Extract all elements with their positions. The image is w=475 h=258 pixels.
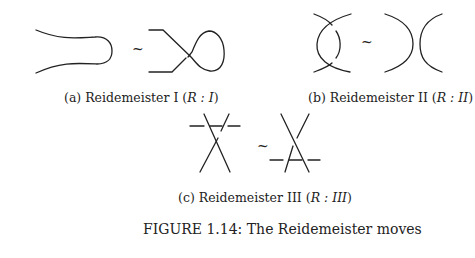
caption-reidemeister-1: (a) Reidemeister I (R : I) [64,90,219,105]
figure-caption: FIGURE 1.14: The Reidemeister moves [143,221,422,237]
caption-reidemeister-3: (c) Reidemeister III (R : III) [178,190,352,205]
r2-left-strands [314,14,351,72]
caption-text: ) [347,190,352,205]
r2-equivalence-symbol: ~ [361,34,373,50]
caption-math: R : II [437,90,468,105]
caption-text: (c) Reidemeister III ( [178,190,311,205]
r2-right-strands [385,14,442,72]
caption-text: (b) Reidemeister II ( [308,90,437,105]
caption-math: R : I [187,90,214,105]
caption-text: ) [468,90,473,105]
r1-left-strand [36,30,112,73]
r1-equivalence-symbol: ~ [132,41,144,57]
r1-right-strand [149,30,224,72]
caption-math: R : III [311,190,347,205]
caption-text: ) [214,90,219,105]
r3-left-strands [190,114,240,172]
reidemeister-diagram: ~ ~ ~ [0,0,475,258]
caption-text: (a) Reidemeister I ( [64,90,187,105]
caption-reidemeister-2: (b) Reidemeister II (R : II) [308,90,473,105]
r3-equivalence-symbol: ~ [257,138,269,154]
r3-right-strands [270,114,320,172]
